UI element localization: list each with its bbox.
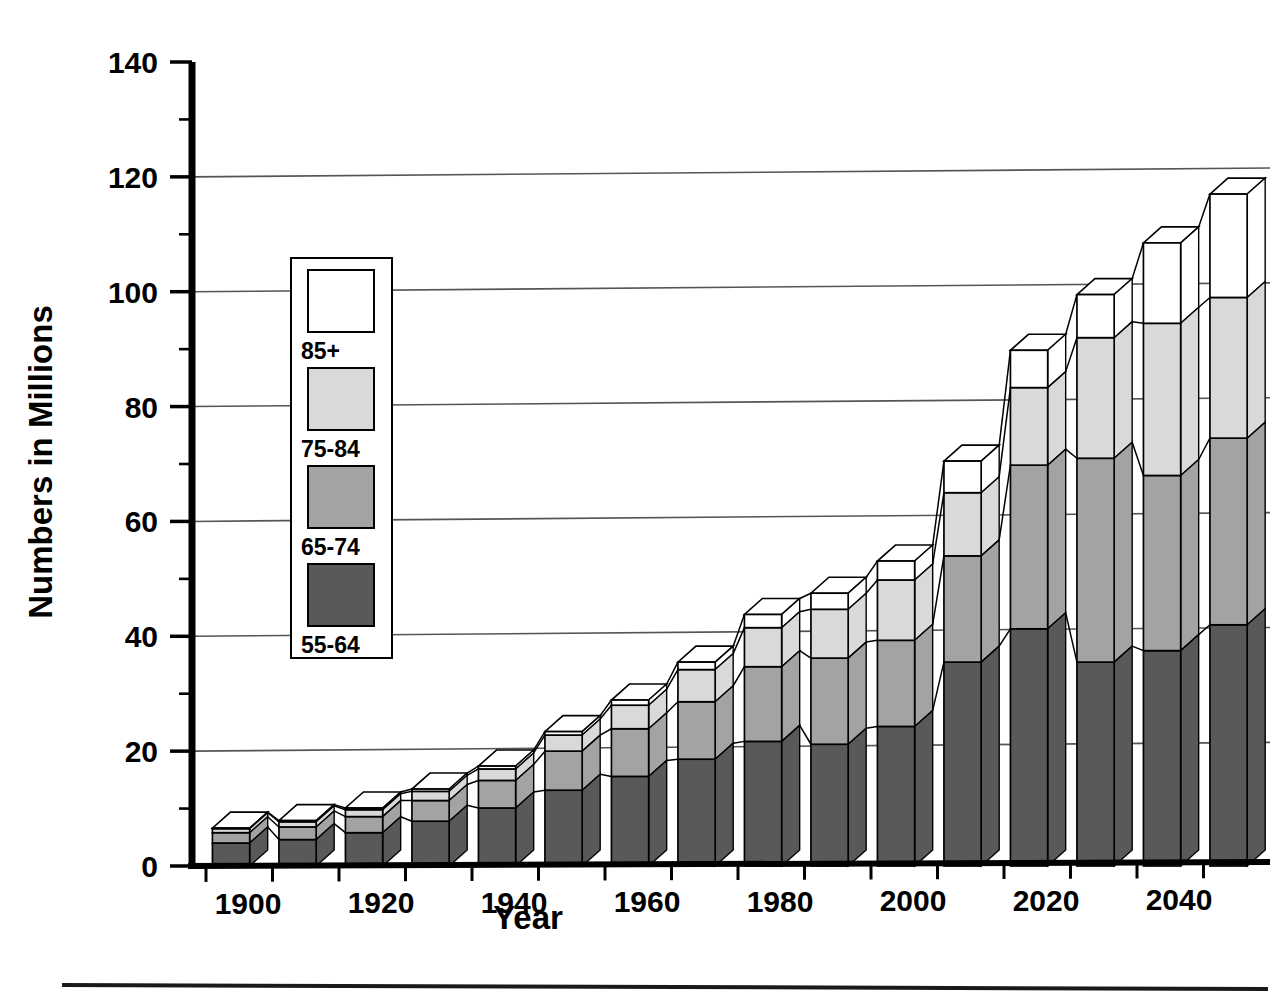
- bar-segment-85+: [1077, 295, 1114, 338]
- bar-2050: [1210, 178, 1265, 866]
- figure-container: 020406080100120140 190019201940196019802…: [0, 0, 1279, 999]
- bar-segment-75-84: [545, 735, 582, 751]
- bar-side-face-55-64: [915, 710, 933, 866]
- bar-segment-85+: [611, 700, 648, 705]
- bar-segment-75-84: [678, 670, 715, 702]
- bar-segment-55-64: [1077, 662, 1114, 866]
- bar-segment-55-64: [744, 741, 781, 866]
- legend-swatch-85+: [308, 270, 374, 332]
- bar-1900: [212, 812, 267, 866]
- bar-segment-85+: [1143, 243, 1180, 323]
- y-tick-label: 60: [125, 505, 158, 538]
- bar-side-face-55-64: [1247, 609, 1265, 866]
- bar-side-face-55-64: [1114, 646, 1132, 866]
- legend-swatch-75-84: [308, 368, 374, 430]
- bar-side-face-55-64: [582, 774, 600, 866]
- bar-segment-75-84: [345, 810, 382, 817]
- bar-side-face-75-84: [1247, 281, 1265, 438]
- bar-segment-75-84: [412, 791, 449, 800]
- y-tick-label: 20: [125, 735, 158, 768]
- legend-label-85+: 85+: [301, 338, 340, 364]
- bar-segment-75-84: [877, 580, 914, 640]
- bar-segment-85+: [811, 593, 848, 609]
- bar-segment-55-64: [611, 776, 648, 866]
- bar-segment-65-74: [412, 801, 449, 822]
- x-axis-line: [188, 862, 1270, 866]
- bar-segment-65-74: [611, 729, 648, 777]
- bar-2020: [1010, 334, 1065, 866]
- bar-side-face-65-74: [1181, 459, 1199, 650]
- bar-segment-75-84: [478, 769, 515, 780]
- bar-1920: [345, 792, 400, 866]
- bar-segment-65-74: [279, 827, 316, 840]
- bar-2030: [1077, 279, 1132, 866]
- bar-segment-55-64: [345, 833, 382, 866]
- bar-segment-65-74: [1010, 465, 1047, 629]
- bar-segment-55-64: [1010, 629, 1047, 866]
- bar-side-face-75-84: [1114, 322, 1132, 459]
- bar-segment-85+: [1010, 350, 1047, 387]
- bar-1980: [744, 598, 799, 866]
- x-tick-label: 1900: [215, 887, 282, 920]
- bar-side-face-55-64: [715, 743, 733, 866]
- bar-segment-85+: [678, 662, 715, 669]
- bar-segment-65-74: [212, 833, 249, 843]
- x-axis-title: Year: [493, 899, 563, 936]
- x-tick-label: 1960: [614, 885, 681, 918]
- bar-side-face-55-64: [1048, 613, 1066, 866]
- bar-side-face-75-84: [1181, 307, 1199, 475]
- bar-segment-65-74: [478, 780, 515, 808]
- bar-1960: [611, 684, 666, 866]
- bar-segment-85+: [279, 821, 316, 822]
- x-tick-label: 1980: [747, 885, 814, 918]
- bar-1940: [478, 750, 533, 866]
- bar-segment-75-84: [1143, 323, 1180, 475]
- legend-label-75-84: 75-84: [301, 436, 360, 462]
- bar-segment-65-74: [1077, 458, 1114, 662]
- bar-side-face-65-74: [1114, 442, 1132, 662]
- bar-segment-65-74: [744, 667, 781, 742]
- bar-1950: [545, 716, 600, 866]
- bar-segment-85+: [478, 766, 515, 769]
- bar-2010: [944, 445, 999, 866]
- bar-segment-85+: [877, 561, 914, 580]
- bar-segment-65-74: [1210, 438, 1247, 625]
- bar-1970: [678, 646, 733, 866]
- bar-segment-55-64: [1143, 651, 1180, 866]
- y-axis-title: Numbers in Millions: [22, 305, 59, 619]
- y-tick-label: 140: [108, 46, 158, 79]
- bar-segment-75-84: [811, 609, 848, 658]
- bar-side-face-65-74: [1247, 422, 1265, 625]
- y-tick-label: 80: [125, 391, 158, 424]
- bar-segment-55-64: [279, 840, 316, 866]
- bar-segment-85+: [412, 789, 449, 791]
- bar-segment-85+: [545, 732, 582, 735]
- legend-swatch-65-74: [308, 466, 374, 528]
- bar-segment-65-74: [678, 702, 715, 759]
- bar-segment-55-64: [545, 790, 582, 866]
- bar-segment-75-84: [1210, 297, 1247, 438]
- bar-side-face-55-64: [1181, 635, 1199, 866]
- y-tick-label: 120: [108, 161, 158, 194]
- bar-segment-55-64: [478, 808, 515, 866]
- y-tick-label: 100: [108, 276, 158, 309]
- bar-segment-55-64: [944, 662, 981, 866]
- x-tick-label: 1920: [348, 886, 415, 919]
- bar-segment-55-64: [811, 744, 848, 866]
- bar-side-face-65-74: [915, 624, 933, 726]
- bar-segment-75-84: [1010, 388, 1047, 466]
- bar-segment-85+: [345, 808, 382, 810]
- bar-segment-65-74: [877, 640, 914, 726]
- bar-segment-65-74: [345, 817, 382, 833]
- bar-segment-55-64: [877, 726, 914, 866]
- bar-segment-55-64: [678, 759, 715, 866]
- bar-2040: [1143, 227, 1198, 866]
- bar-2000: [877, 545, 932, 866]
- bar-side-face-65-74: [848, 642, 866, 744]
- bar-segment-75-84: [744, 628, 781, 667]
- bar-side-face-65-74: [981, 540, 999, 662]
- legend-label-55-64: 55-64: [301, 632, 360, 658]
- bar-segment-85+: [1210, 194, 1247, 297]
- legend-label-65-74: 65-74: [301, 534, 360, 560]
- legend: 85+75-8465-7455-64: [291, 258, 392, 658]
